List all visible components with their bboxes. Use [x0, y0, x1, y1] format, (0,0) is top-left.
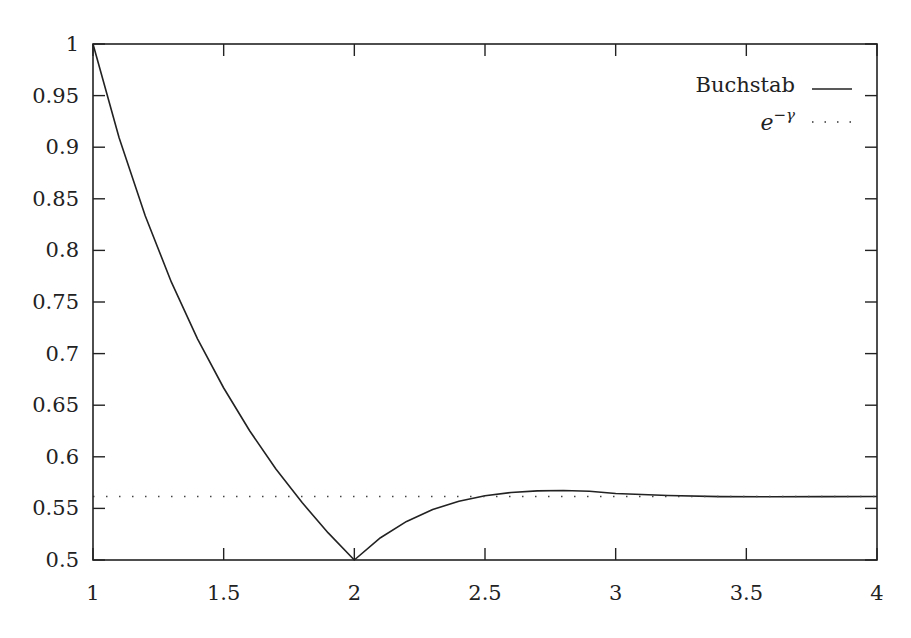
- x-tick-label: 1.5: [207, 581, 240, 605]
- y-tick-label: 0.75: [32, 290, 79, 314]
- x-tick-label: 2: [348, 581, 361, 605]
- y-tick-label: 0.5: [46, 548, 79, 572]
- y-tick-label: 0.55: [32, 496, 79, 520]
- x-tick-label: 1: [86, 581, 99, 605]
- y-tick-label: 0.95: [32, 84, 79, 108]
- y-axis-ticks: 10.950.90.850.80.750.70.650.60.550.5: [32, 32, 877, 572]
- x-tick-label: 3.5: [730, 581, 763, 605]
- y-tick-label: 1: [66, 32, 79, 56]
- legend: Buchstab e−γ: [696, 73, 852, 135]
- y-tick-label: 0.6: [46, 445, 79, 469]
- plot-frame: [93, 44, 877, 560]
- series-layer: [93, 44, 877, 560]
- y-tick-label: 0.9: [46, 135, 79, 159]
- legend-superscript: −γ: [773, 106, 795, 124]
- series-buchstab: [93, 44, 877, 560]
- y-tick-label: 0.85: [32, 187, 79, 211]
- y-tick-label: 0.7: [46, 342, 79, 366]
- buchstab-chart: 10.950.90.850.80.750.70.650.60.550.5 11.…: [0, 0, 911, 638]
- y-tick-label: 0.65: [32, 393, 79, 417]
- x-tick-label: 2.5: [468, 581, 501, 605]
- legend-e: e: [760, 110, 773, 135]
- x-tick-label: 3: [609, 581, 622, 605]
- legend-label-buchstab: Buchstab: [696, 73, 795, 97]
- legend-label-e-minus-gamma: e−γ: [760, 106, 795, 135]
- y-tick-label: 0.8: [46, 238, 79, 262]
- x-tick-label: 4: [870, 581, 883, 605]
